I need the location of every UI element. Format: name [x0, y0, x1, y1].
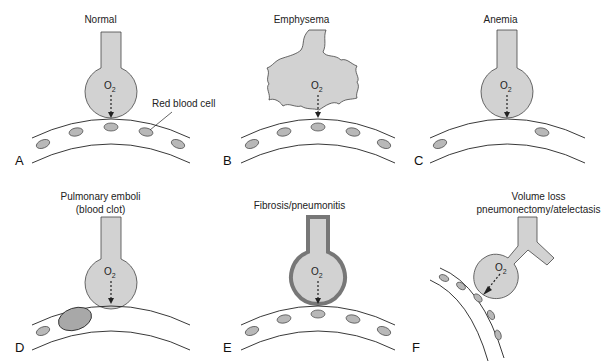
- panel-fibrosis: Fibrosis/pneumonitis O2 E: [201, 180, 402, 360]
- o2-label: O2: [500, 80, 512, 93]
- red-blood-cell: [104, 123, 118, 131]
- blood-clot: [55, 303, 94, 334]
- emboli-alveolus-capillary-diagram: [0, 180, 201, 361]
- panel-letter: B: [223, 153, 232, 168]
- red-blood-cell: [244, 138, 260, 151]
- red-blood-cell: [376, 138, 392, 151]
- o2-label: O2: [311, 266, 323, 279]
- panel-normal: Normal O2 Red blood cell A: [0, 0, 201, 180]
- red-blood-cell: [35, 138, 51, 151]
- red-blood-cell: [170, 138, 186, 151]
- red-blood-cell: [68, 127, 83, 138]
- panel-anemia: Anemia O2 C: [402, 0, 603, 180]
- panel-emphysema: Emphysema O2 B: [201, 0, 402, 180]
- o2-label: O2: [104, 266, 116, 279]
- panel-letter: F: [412, 340, 420, 355]
- collapsed-alveolus: [474, 217, 554, 299]
- red-blood-cell: [534, 127, 549, 138]
- red-blood-cell: [345, 127, 360, 138]
- panel-letter: A: [15, 153, 24, 168]
- red-blood-cell: [432, 138, 448, 151]
- callout-leader-line: [150, 112, 172, 130]
- red-blood-cell: [35, 325, 51, 338]
- normal-alveolus-capillary-diagram: [0, 0, 201, 180]
- thickened-alveolus: [291, 217, 345, 304]
- o2-label: O2: [311, 80, 323, 93]
- o2-label: O2: [495, 262, 507, 275]
- panel-letter: E: [223, 340, 232, 355]
- red-blood-cell: [138, 127, 153, 138]
- o2-label: O2: [104, 80, 116, 93]
- fibrosis-alveolus-capillary-diagram: [201, 180, 402, 361]
- panel-letter: D: [15, 340, 24, 355]
- enlarged-alveolus: [267, 30, 358, 110]
- red-blood-cell: [276, 127, 291, 138]
- panel-letter: C: [414, 153, 423, 168]
- red-blood-cell: [311, 123, 325, 131]
- capillary-lower-wall: [32, 144, 190, 163]
- panel-pulmonary-emboli: Pulmonary emboli (blood clot) O2 D: [0, 180, 201, 360]
- alveolus: [85, 32, 137, 118]
- panel-volume-loss: Volume loss pneumonectomy/atelectasis O2…: [402, 180, 603, 360]
